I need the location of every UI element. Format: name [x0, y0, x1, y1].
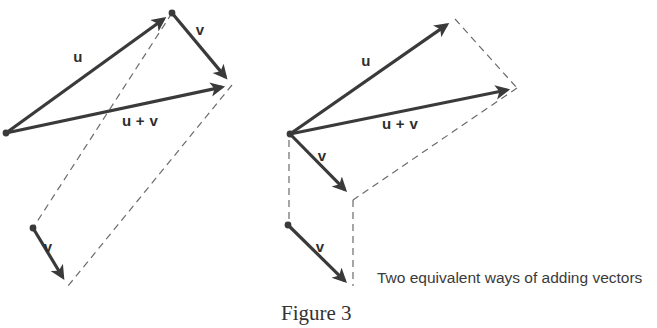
right-diagram-vertex-dot	[285, 222, 292, 229]
right-diagram-vertex-dot	[287, 131, 294, 138]
vector-addition-figure: uvu + vvuu + vvv Two equivalent ways of …	[0, 0, 657, 328]
right-diagram-label-u: u	[361, 52, 370, 69]
left-diagram-label-u_plus_v: u + v	[122, 112, 158, 129]
right-diagram-label-v_upper: v	[318, 147, 327, 164]
right-diagram-label-u_plus_v: u + v	[382, 115, 418, 132]
figure-number-label: Figure 3	[281, 301, 352, 325]
left-diagram-label-v_translated: v	[44, 238, 53, 255]
guide-u-tip-to-sum-tip	[455, 19, 517, 88]
left-diagram-label-v: v	[196, 21, 205, 38]
left-diagram-vertex-dot	[30, 225, 37, 232]
dashed-guide-lines	[33, 13, 517, 286]
left-diagram-label-u: u	[73, 48, 82, 65]
left-diagram-vertex-dot	[3, 130, 10, 137]
left-diagram-vertex-dot	[169, 10, 176, 17]
vector-labels: uvu + vvuu + vvv	[44, 21, 419, 255]
right-diagram-label-v_lower: v	[316, 238, 325, 255]
figure-caption-note: Two equivalent ways of adding vectors	[377, 269, 643, 286]
figure-container: uvu + vvuu + vvv Two equivalent ways of …	[0, 0, 657, 328]
